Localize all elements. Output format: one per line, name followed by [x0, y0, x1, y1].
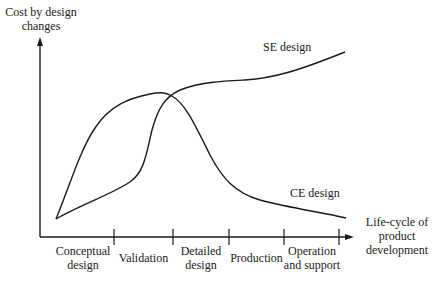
phase-label-conceptual-design: Conceptual design [52, 244, 114, 272]
phase-label-production: Production [229, 251, 284, 265]
y-axis-label: Cost by design changes [0, 5, 82, 33]
phase-label-detailed-design: Detailed design [173, 244, 229, 272]
phase-label-operation-support: Operation and support [282, 244, 342, 272]
x-axis-label: Life-cycle of product development [352, 215, 442, 257]
ce-design-label: CE design [290, 186, 340, 200]
phase-label-validation: Validation [114, 251, 173, 265]
y-axis-arrow-icon [37, 37, 43, 46]
ce-design-curve [56, 93, 346, 219]
se-design-label: SE design [263, 40, 311, 54]
